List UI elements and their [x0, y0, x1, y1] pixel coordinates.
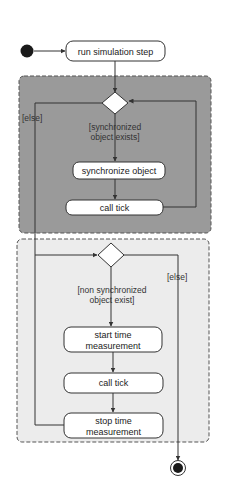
guard-nonsync-line2: object exist] — [90, 295, 135, 305]
initial-node — [21, 45, 34, 58]
action-label-line2: measurement — [85, 341, 141, 351]
action-label: call tick — [99, 378, 129, 388]
action-label-line1: start time — [94, 330, 131, 340]
action-label: synchronize object — [82, 166, 157, 176]
final-node — [173, 463, 183, 473]
action-label: run simulation step — [78, 47, 154, 57]
activity-diagram: run simulation step [synchronized object… — [0, 0, 231, 482]
action-label: call tick — [100, 203, 130, 213]
guard-else-left: [else] — [22, 113, 42, 123]
action-label-line2: measurement — [86, 427, 142, 437]
guard-nonsync-line1: [non synchronized — [78, 285, 147, 295]
action-label-line1: stop time — [95, 416, 132, 426]
guard-else-right: [else] — [167, 272, 187, 282]
